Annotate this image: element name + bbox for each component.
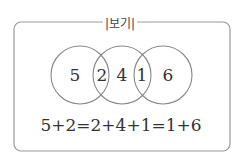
region-middle-right: 1 [137,67,148,84]
equation: 5+2=2+4+1=1+6 [40,115,201,135]
region-left-only: 5 [70,67,81,84]
example-title: |보기| [103,14,137,31]
region-right-only: 6 [163,67,174,84]
region-left-middle: 2 [97,67,108,84]
region-middle-only: 4 [117,67,128,84]
